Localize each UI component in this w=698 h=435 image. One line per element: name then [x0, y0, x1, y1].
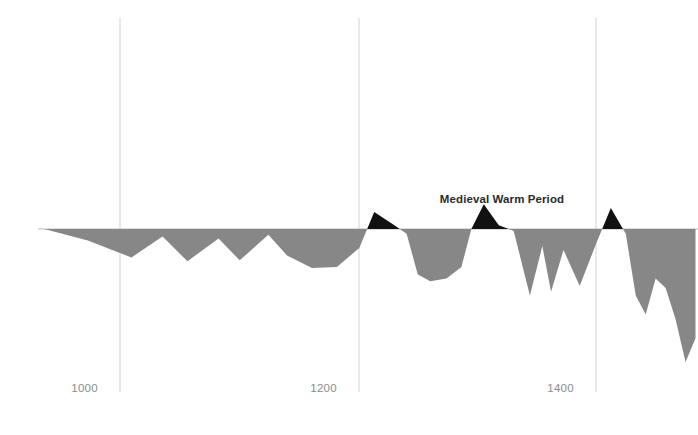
area-series-group — [44, 204, 695, 362]
annotations-group: Medieval Warm Period — [440, 193, 564, 205]
temperature-anomaly-chart: 100012001400 Medieval Warm Period — [0, 0, 698, 435]
positive-anomaly-area — [367, 204, 623, 229]
x-tick-label-1200: 1200 — [310, 382, 337, 394]
x-tick-label-1400: 1400 — [547, 382, 574, 394]
gridlines-group — [120, 18, 596, 392]
annotation-medieval-warm-period: Medieval Warm Period — [440, 193, 564, 205]
x-tick-label-1000: 1000 — [71, 382, 98, 394]
x-axis-tick-labels: 100012001400 — [71, 382, 574, 394]
chart-canvas: 100012001400 Medieval Warm Period — [0, 0, 698, 435]
negative-anomaly-area — [44, 229, 695, 362]
